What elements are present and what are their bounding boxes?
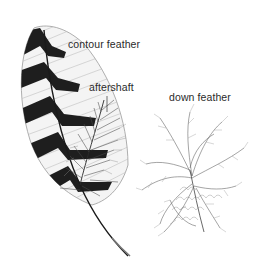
- feather-diagram: contour feather aftershaft down feather: [0, 0, 255, 266]
- contour-feather-label: contour feather: [68, 39, 140, 50]
- aftershaft-label: aftershaft: [89, 82, 134, 93]
- down-feather-label: down feather: [169, 92, 231, 103]
- contour-feather: [16, 20, 130, 256]
- down-feather: [136, 104, 248, 236]
